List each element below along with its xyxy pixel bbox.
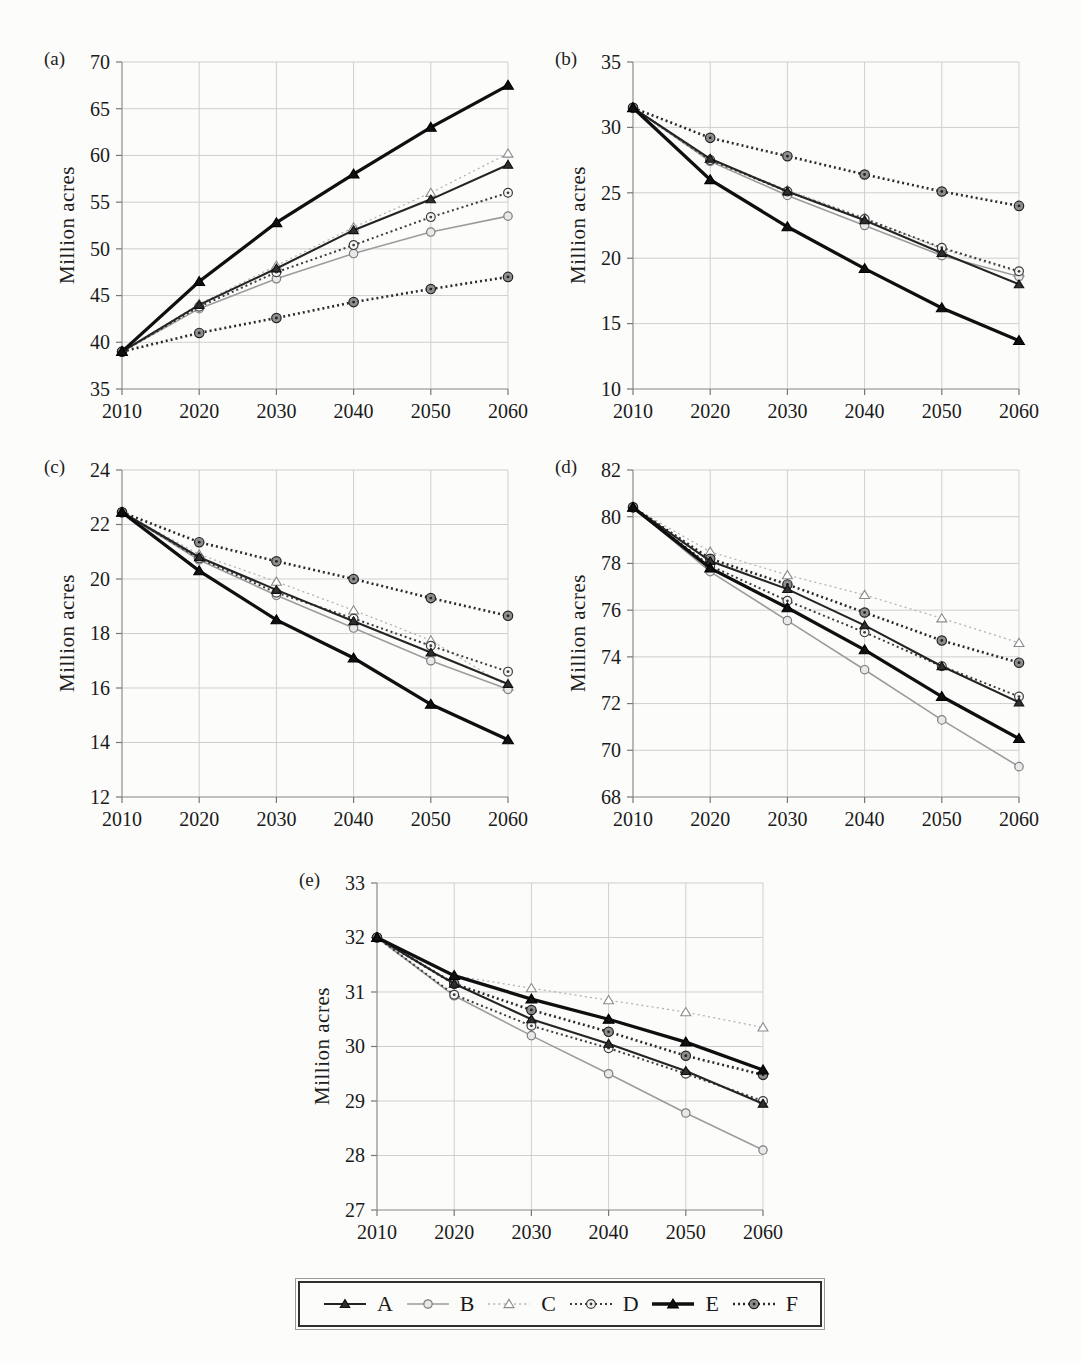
- svg-text:2020: 2020: [434, 1221, 474, 1243]
- chart-panel-e: (e) Million acres 2728293031323320102020…: [285, 849, 795, 1254]
- svg-text:15: 15: [601, 312, 621, 334]
- svg-text:2010: 2010: [613, 400, 653, 422]
- svg-text:24: 24: [90, 459, 110, 481]
- svg-text:25: 25: [601, 182, 621, 204]
- svg-text:2060: 2060: [488, 808, 528, 830]
- legend-entry-C: C: [486, 1291, 556, 1317]
- line-plot-b: 101520253035201020202030204020502060: [541, 28, 1051, 433]
- line-plot-a: 3540455055606570201020202030204020502060: [30, 28, 540, 433]
- svg-text:80: 80: [601, 506, 621, 528]
- svg-text:65: 65: [90, 98, 110, 120]
- svg-text:2050: 2050: [666, 1221, 706, 1243]
- svg-text:2060: 2060: [743, 1221, 783, 1243]
- svg-text:30: 30: [601, 116, 621, 138]
- svg-text:2010: 2010: [102, 808, 142, 830]
- legend-sample-E-icon: [650, 1295, 696, 1313]
- legend-label-A: A: [377, 1291, 393, 1317]
- svg-text:60: 60: [90, 144, 110, 166]
- svg-text:2040: 2040: [334, 808, 374, 830]
- svg-text:2020: 2020: [690, 808, 730, 830]
- svg-text:16: 16: [90, 677, 110, 699]
- svg-text:35: 35: [601, 51, 621, 73]
- svg-text:2060: 2060: [999, 400, 1039, 422]
- svg-text:2040: 2040: [589, 1221, 629, 1243]
- chart-panel-c: (c) Million acres 1214161820222420102020…: [30, 436, 540, 841]
- svg-text:74: 74: [601, 646, 621, 668]
- svg-text:2060: 2060: [999, 808, 1039, 830]
- svg-text:20: 20: [90, 568, 110, 590]
- legend-entry-B: B: [405, 1291, 475, 1317]
- legend-entry-E: E: [650, 1291, 718, 1317]
- svg-text:2030: 2030: [256, 808, 296, 830]
- legend-label-F: F: [786, 1291, 798, 1317]
- svg-text:2030: 2030: [767, 808, 807, 830]
- svg-text:70: 70: [601, 739, 621, 761]
- svg-text:2020: 2020: [179, 400, 219, 422]
- chart-panel-a: (a) Million acres 3540455055606570201020…: [30, 28, 540, 433]
- chart-panel-b: (b) Million acres 1015202530352010202020…: [541, 28, 1051, 433]
- svg-text:2020: 2020: [179, 808, 219, 830]
- svg-text:20: 20: [601, 247, 621, 269]
- legend-label-E: E: [705, 1291, 718, 1317]
- svg-text:82: 82: [601, 459, 621, 481]
- svg-text:2040: 2040: [845, 808, 885, 830]
- legend-sample-C-icon: [486, 1295, 532, 1313]
- svg-text:2050: 2050: [411, 400, 451, 422]
- legend-entry-A: A: [322, 1291, 393, 1317]
- line-plot-d: 6870727476788082201020202030204020502060: [541, 436, 1051, 841]
- svg-text:30: 30: [345, 1035, 365, 1057]
- svg-text:32: 32: [345, 926, 365, 948]
- svg-text:2030: 2030: [511, 1221, 551, 1243]
- svg-text:2010: 2010: [613, 808, 653, 830]
- svg-text:10: 10: [601, 378, 621, 400]
- svg-text:14: 14: [90, 731, 110, 753]
- svg-text:2030: 2030: [256, 400, 296, 422]
- legend: ABCDEF: [298, 1281, 822, 1327]
- svg-text:35: 35: [90, 378, 110, 400]
- line-plot-e: 27282930313233201020202030204020502060: [285, 849, 795, 1254]
- svg-text:2010: 2010: [357, 1221, 397, 1243]
- legend-sample-D-icon: [568, 1295, 614, 1313]
- svg-text:70: 70: [90, 51, 110, 73]
- legend-label-C: C: [541, 1291, 556, 1317]
- svg-text:78: 78: [601, 552, 621, 574]
- chart-panel-d: (d) Million acres 6870727476788082201020…: [541, 436, 1051, 841]
- svg-text:2040: 2040: [334, 400, 374, 422]
- svg-text:2010: 2010: [102, 400, 142, 422]
- svg-text:40: 40: [90, 331, 110, 353]
- svg-text:55: 55: [90, 191, 110, 213]
- svg-text:2050: 2050: [922, 808, 962, 830]
- svg-text:72: 72: [601, 692, 621, 714]
- svg-text:76: 76: [601, 599, 621, 621]
- legend-sample-B-icon: [405, 1295, 451, 1313]
- legend-entry-D: D: [568, 1291, 639, 1317]
- legend-label-B: B: [460, 1291, 475, 1317]
- svg-text:29: 29: [345, 1090, 365, 1112]
- legend-sample-A-icon: [322, 1295, 368, 1313]
- svg-text:2040: 2040: [845, 400, 885, 422]
- svg-text:2050: 2050: [922, 400, 962, 422]
- line-plot-c: 12141618202224201020202030204020502060: [30, 436, 540, 841]
- svg-text:2050: 2050: [411, 808, 451, 830]
- svg-text:22: 22: [90, 513, 110, 535]
- svg-text:12: 12: [90, 786, 110, 808]
- svg-text:68: 68: [601, 786, 621, 808]
- legend-sample-F-icon: [731, 1295, 777, 1313]
- svg-text:45: 45: [90, 284, 110, 306]
- legend-entry-F: F: [731, 1291, 798, 1317]
- svg-text:18: 18: [90, 622, 110, 644]
- svg-text:2030: 2030: [767, 400, 807, 422]
- svg-text:33: 33: [345, 872, 365, 894]
- svg-text:50: 50: [90, 238, 110, 260]
- svg-text:2060: 2060: [488, 400, 528, 422]
- legend-label-D: D: [623, 1291, 639, 1317]
- svg-text:27: 27: [345, 1199, 365, 1221]
- svg-text:28: 28: [345, 1144, 365, 1166]
- svg-text:31: 31: [345, 981, 365, 1003]
- svg-text:2020: 2020: [690, 400, 730, 422]
